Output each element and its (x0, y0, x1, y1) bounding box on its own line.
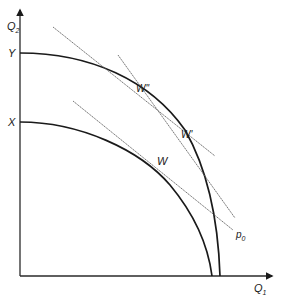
y-axis-label: Q2 (7, 20, 20, 34)
price-line-p0 (73, 101, 233, 230)
inner-frontier-curve (20, 122, 212, 276)
ppf-diagram: Q2 Q1 Y X W'' W' W p0 (0, 0, 281, 299)
point-label-w: W (157, 155, 169, 167)
outer-frontier-curve (20, 53, 220, 276)
x-axis-label: Q1 (254, 282, 267, 296)
price-line-label: p0 (235, 229, 246, 242)
point-label-w-double-prime: W'' (136, 83, 150, 94)
point-label-w-prime: W' (181, 129, 193, 140)
outer-intercept-label: Y (8, 47, 16, 59)
inner-intercept-label: X (7, 116, 16, 128)
